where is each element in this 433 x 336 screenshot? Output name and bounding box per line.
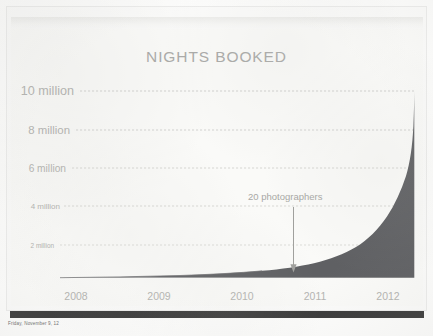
y-tick-8-million: 8 million [8, 124, 70, 136]
footer-bar [10, 311, 424, 318]
slide-photograph: NIGHTS BOOKED [0, 0, 433, 336]
x-tick-2012: 2012 [376, 290, 399, 302]
y-tick-6-million: 6 million [8, 163, 66, 174]
y-tick-10-million: 10 million [8, 84, 74, 98]
x-tick-2011: 2011 [304, 290, 327, 302]
y-tick-4-million: 4 million [8, 202, 60, 211]
annotation-20-photographers: 20 photographers [248, 191, 322, 202]
annotation-arrow-icon [290, 207, 296, 272]
y-tick-2-million: 2 million [8, 242, 54, 249]
gridlines [58, 91, 414, 246]
footer-date-caption: Friday, November 9, 12 [8, 321, 59, 326]
x-tick-2009: 2009 [147, 290, 170, 302]
x-tick-2010: 2010 [230, 290, 253, 302]
area-series-nights-booked [60, 91, 414, 278]
x-tick-2008: 2008 [64, 290, 87, 302]
